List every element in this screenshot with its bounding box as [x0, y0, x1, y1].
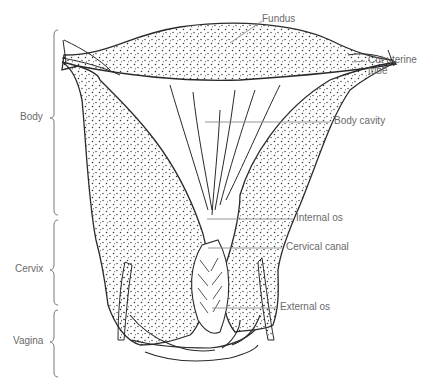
- label-cut-uterine-tube-line2: tube: [368, 65, 387, 76]
- label-fundus: Fundus: [262, 14, 295, 25]
- label-cervical-canal: Cervical canal: [286, 242, 349, 253]
- label-external-os: External os: [280, 302, 330, 313]
- label-region-cervix: Cervix: [15, 264, 43, 275]
- left-wall: [62, 62, 208, 345]
- right-wall: [220, 62, 396, 332]
- label-internal-os: Internal os: [296, 213, 343, 224]
- label-cut-uterine-tube: Cut uterine tube: [368, 55, 417, 76]
- label-region-vagina: Vagina: [13, 336, 43, 347]
- region-braces: [50, 30, 58, 377]
- label-region-body: Body: [20, 112, 43, 123]
- cervical-canal: [192, 240, 229, 333]
- label-cut-uterine-tube-line1: Cut uterine: [368, 54, 417, 65]
- label-body-cavity: Body cavity: [334, 116, 385, 127]
